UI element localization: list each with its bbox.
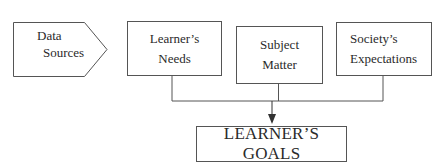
societys-expectations-box: Society’s Expectations — [336, 22, 432, 76]
learners-goals-box: LEARNER’S GOALS — [196, 126, 347, 162]
learners-needs-line2: Needs — [158, 49, 191, 69]
learners-needs-box: Learner’s Needs — [127, 21, 222, 76]
learners-goals-label: LEARNER’S GOALS — [197, 124, 346, 164]
data-sources-label-2: Sources — [43, 43, 84, 63]
societys-expectations-line2: Expectations — [350, 49, 417, 69]
subject-matter-line2: Matter — [262, 55, 297, 75]
subject-matter-line1: Subject — [260, 35, 299, 55]
arrow-head-icon — [268, 114, 276, 124]
learners-needs-line1: Learner’s — [150, 29, 200, 49]
societys-expectations-line1: Society’s — [350, 29, 398, 49]
subject-matter-box: Subject Matter — [236, 26, 323, 84]
